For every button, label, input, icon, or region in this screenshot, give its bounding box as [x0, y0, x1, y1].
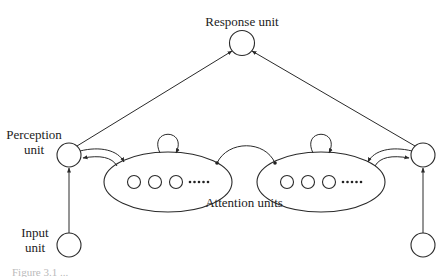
- figure-caption: Figure 3.1 ...: [12, 266, 68, 277]
- perception-unit-left-node: Perception unit: [6, 127, 81, 167]
- input-unit-right-node: [411, 233, 435, 257]
- perception-unit-label-line2: unit: [24, 142, 45, 157]
- attention-to-perception-right-edge: [375, 157, 409, 166]
- input-unit-label-line2: unit: [25, 240, 46, 255]
- diagram-canvas: Response unit Perception unit Input unit: [0, 0, 447, 277]
- attention-unit: [323, 176, 336, 189]
- attention-unit: [302, 176, 315, 189]
- attention-units-label: Attention units: [205, 195, 283, 210]
- response-unit-label: Response unit: [205, 14, 279, 29]
- perception-unit-right-node: [411, 143, 435, 167]
- input-unit-left-node: Input unit: [21, 225, 81, 257]
- input-unit-label-line1: Input: [21, 225, 49, 240]
- attention-unit: [170, 176, 183, 189]
- attention-unit: [149, 176, 162, 189]
- perception-left-to-response-edge: [77, 51, 232, 146]
- attention-unit: [281, 176, 294, 189]
- attention-network-diagram: Response unit Perception unit Input unit: [0, 0, 447, 277]
- perception-unit-label-line1: Perception: [6, 127, 62, 142]
- attention-to-perception-left-edge: [83, 157, 117, 166]
- perception-right-to-response-edge: [252, 51, 415, 146]
- perception-to-attention-left-edge: [80, 149, 124, 162]
- attention-unit: [128, 176, 141, 189]
- perception-to-attention-right-edge: [368, 149, 412, 162]
- attention-group-link: [217, 146, 275, 163]
- response-unit-node: Response unit: [205, 14, 279, 56]
- self-loop-left: [158, 134, 179, 153]
- self-loop-right: [311, 134, 332, 153]
